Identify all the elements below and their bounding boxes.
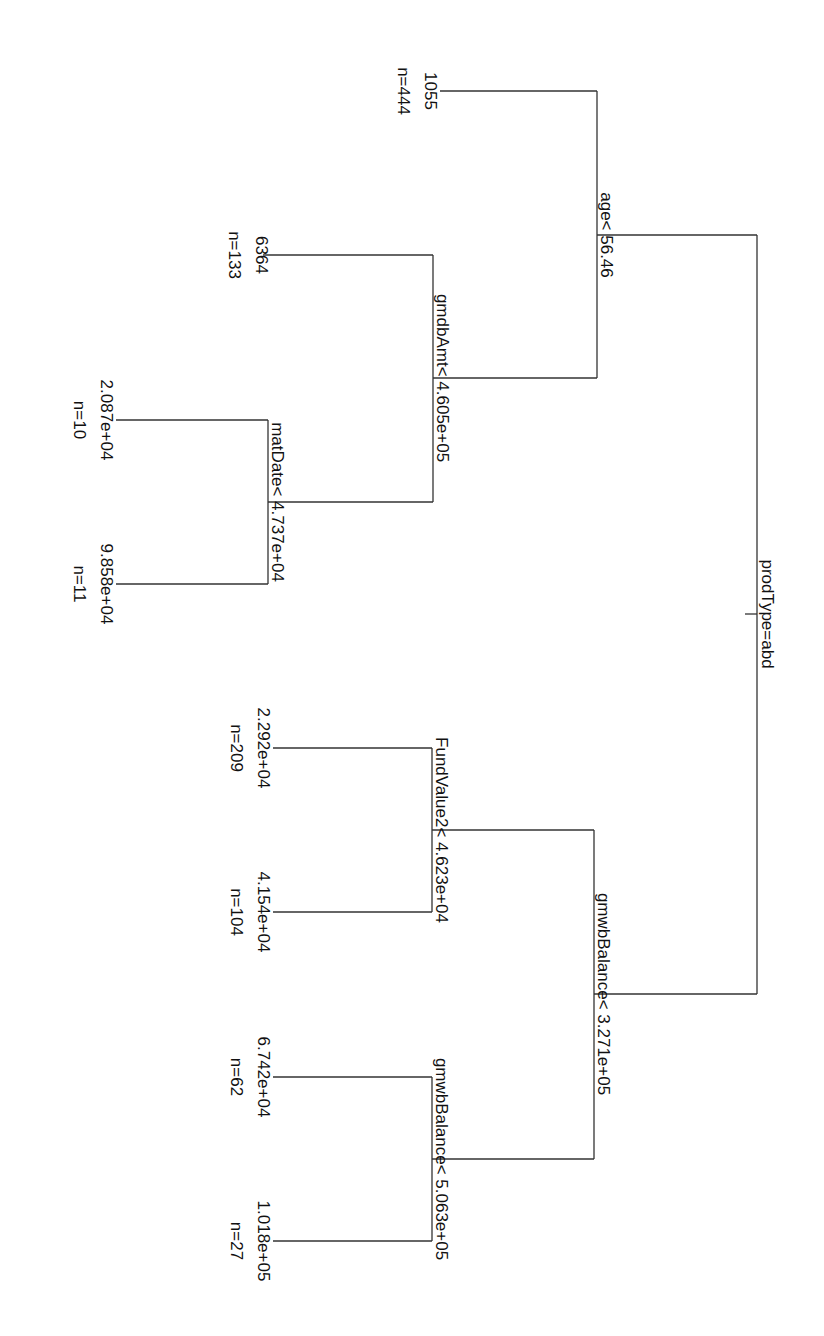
leaf-node-2292e04: 2.292e+04 n=209 [227,708,273,789]
leaf-value: 9.858e+04 [97,544,116,625]
leaf-value: 2.087e+04 [97,380,116,461]
leaf-value: 6364 [252,236,271,274]
leaf-value: 4.154e+04 [254,872,273,953]
leaf-node-4154e04: 4.154e+04 n=104 [227,872,273,953]
regression-tree-diagram: prodType=abd age< 56.46 gmdbAmt< 4.605e+… [0,0,824,1336]
leaf-count: n=104 [227,888,246,936]
split-label-age: age< 56.46 [597,192,616,278]
leaf-count: n=27 [227,1222,246,1260]
leaf-count: n=10 [70,401,89,439]
leaf-value: 2.292e+04 [254,708,273,789]
split-label-root: prodType=abd [758,559,777,668]
leaf-count: n=444 [394,67,413,115]
leaf-labels: 1055 n=444 6364 n=133 2.087e+04 n=10 9.8… [70,67,440,1281]
leaf-node-2087e04: 2.087e+04 n=10 [70,380,116,461]
leaf-value: 1055 [421,72,440,110]
leaf-node-6742e04: 6.742e+04 n=62 [227,1037,273,1118]
split-label-matdate: matDate< 4.737e+04 [268,422,287,582]
leaf-count: n=62 [227,1058,246,1096]
split-label-gmwb1: gmwbBalance< 3.271e+05 [594,893,613,1095]
leaf-count: n=11 [70,565,89,602]
split-labels: prodType=abd age< 56.46 gmdbAmt< 4.605e+… [268,192,777,1260]
leaf-count: n=133 [225,231,244,279]
split-label-gmwb2: gmwbBalance< 5.063e+05 [432,1058,451,1260]
split-label-gmdbamt: gmdbAmt< 4.605e+05 [433,294,452,462]
leaf-node-1055: 1055 n=444 [394,67,440,115]
leaf-node-6364: 6364 n=133 [225,231,271,279]
split-label-fund: FundValue2< 4.623e+04 [432,737,451,923]
leaf-node-1018e05: 1.018e+05 n=27 [227,1201,273,1282]
leaf-value: 6.742e+04 [254,1037,273,1118]
leaf-node-9858e04: 9.858e+04 n=11 [70,544,116,625]
leaf-value: 1.018e+05 [254,1201,273,1282]
leaf-count: n=209 [227,724,246,772]
